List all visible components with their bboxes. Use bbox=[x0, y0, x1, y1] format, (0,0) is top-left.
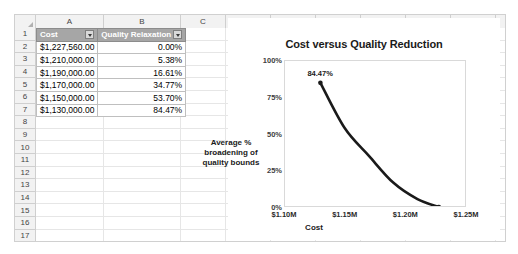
grid-cell-B17[interactable] bbox=[104, 230, 181, 243]
column-header-cost-label: Cost bbox=[40, 30, 58, 39]
series-line bbox=[285, 61, 465, 206]
grid-cell-B13[interactable] bbox=[104, 179, 181, 192]
column-header-C[interactable]: C bbox=[181, 15, 226, 28]
grid-cell-C5[interactable] bbox=[181, 78, 226, 91]
row-header-10[interactable]: 10 bbox=[15, 141, 35, 154]
filter-dropdown-icon-quality-relaxation[interactable] bbox=[173, 30, 182, 39]
grid-cell-A9[interactable] bbox=[36, 129, 104, 142]
grid-cell-C8[interactable] bbox=[181, 116, 226, 129]
table-row[interactable]: $1,150,000.0053.70% bbox=[37, 91, 186, 104]
table-row[interactable]: $1,170,000.0034.77% bbox=[37, 79, 186, 92]
row-header-13[interactable]: 13 bbox=[15, 179, 35, 192]
grid-cell-B10[interactable] bbox=[104, 141, 181, 154]
cell-cost[interactable]: $1,227,560.00 bbox=[37, 41, 98, 54]
grid-cell-C12[interactable] bbox=[181, 167, 226, 180]
grid-cell-C3[interactable] bbox=[181, 53, 226, 66]
cell-cost[interactable]: $1,210,000.00 bbox=[37, 54, 98, 67]
chart-title: Cost versus Quality Reduction bbox=[228, 38, 500, 50]
y-tick-25%: 25% bbox=[242, 166, 282, 175]
row-header-9[interactable]: 9 bbox=[15, 129, 35, 142]
x-tick-$1.20M: $1.20M bbox=[377, 210, 433, 219]
grid-cell-C16[interactable] bbox=[181, 217, 226, 230]
grid-cell-B14[interactable] bbox=[104, 192, 181, 205]
grid-cell-B9[interactable] bbox=[104, 129, 181, 142]
cell-quality-relaxation[interactable]: 53.70% bbox=[98, 91, 186, 104]
grid-cell-B8[interactable] bbox=[104, 116, 181, 129]
filter-dropdown-icon-cost[interactable] bbox=[85, 30, 94, 39]
row-header-12[interactable]: 12 bbox=[15, 167, 35, 180]
row-header-4[interactable]: 4 bbox=[15, 66, 35, 79]
row-header-16[interactable]: 16 bbox=[15, 217, 35, 230]
plot-area bbox=[284, 60, 466, 207]
row-header-15[interactable]: 15 bbox=[15, 204, 35, 217]
table-row[interactable]: $1,130,000.0084.47% bbox=[37, 104, 186, 117]
table-row[interactable]: $1,190,000.0016.61% bbox=[37, 66, 186, 79]
grid-cell-C17[interactable] bbox=[181, 230, 226, 243]
column-header-quality-relaxation[interactable]: Quality Relaxation bbox=[98, 29, 186, 42]
table-header-row: Cost Quality Relaxation bbox=[37, 29, 186, 42]
row-header-17[interactable]: 17 bbox=[15, 230, 35, 243]
grid-cell-C7[interactable] bbox=[181, 104, 226, 117]
y-tick-100%: 100% bbox=[242, 56, 282, 65]
y-axis-title-line: broadening of bbox=[186, 148, 276, 158]
grid-cell-A13[interactable] bbox=[36, 179, 104, 192]
y-tick-50%: 50% bbox=[242, 129, 282, 138]
cell-quality-relaxation[interactable]: 16.61% bbox=[98, 66, 186, 79]
cell-quality-relaxation[interactable]: 0.00% bbox=[98, 41, 186, 54]
row-header-2[interactable]: 2 bbox=[15, 41, 35, 54]
column-header-cost[interactable]: Cost bbox=[37, 29, 98, 42]
cell-quality-relaxation[interactable]: 34.77% bbox=[98, 79, 186, 92]
y-axis-title: Average %broadening ofquality bounds bbox=[186, 138, 276, 168]
cell-cost[interactable]: $1,130,000.00 bbox=[37, 104, 98, 117]
grid-cell-B16[interactable] bbox=[104, 217, 181, 230]
data-label-84: 84.47% bbox=[307, 69, 332, 78]
cell-quality-relaxation[interactable]: 5.38% bbox=[98, 54, 186, 67]
grid-cell-C4[interactable] bbox=[181, 66, 226, 79]
column-header-A[interactable]: A bbox=[36, 15, 104, 28]
grid-cell-A15[interactable] bbox=[36, 204, 104, 217]
grid-cell-B15[interactable] bbox=[104, 204, 181, 217]
excel-worksheet-screenshot: ABCDEFGHIJK 1234567891011121314151617181… bbox=[0, 0, 518, 254]
row-header-14[interactable]: 14 bbox=[15, 192, 35, 205]
cell-quality-relaxation[interactable]: 84.47% bbox=[98, 104, 186, 117]
row-header-8[interactable]: 8 bbox=[15, 116, 35, 129]
row-header-1[interactable]: 1 bbox=[15, 28, 35, 41]
grid-cell-C13[interactable] bbox=[181, 179, 226, 192]
row-header-column: 12345678910111213141516171819 bbox=[15, 28, 36, 242]
grid-cell-B12[interactable] bbox=[104, 167, 181, 180]
grid-cell-A17[interactable] bbox=[36, 230, 104, 243]
y-axis-title-line: Average % bbox=[186, 138, 276, 148]
row-header-6[interactable]: 6 bbox=[15, 91, 35, 104]
y-tick-75%: 75% bbox=[242, 92, 282, 101]
row-header-11[interactable]: 11 bbox=[15, 154, 35, 167]
x-tick-$1.10M: $1.10M bbox=[256, 210, 312, 219]
table-row[interactable]: $1,227,560.000.00% bbox=[37, 41, 186, 54]
data-point-first bbox=[318, 81, 323, 86]
grid-cell-A11[interactable] bbox=[36, 154, 104, 167]
grid-cell-C15[interactable] bbox=[181, 204, 226, 217]
select-all-icon[interactable] bbox=[15, 15, 36, 28]
row-header-7[interactable]: 7 bbox=[15, 104, 35, 117]
x-tick-$1.15M: $1.15M bbox=[317, 210, 373, 219]
grid-cell-C2[interactable] bbox=[181, 41, 226, 54]
chart-object[interactable]: Cost versus Quality Reduction Average %b… bbox=[228, 18, 500, 240]
cell-cost[interactable]: $1,170,000.00 bbox=[37, 79, 98, 92]
grid-cell-A10[interactable] bbox=[36, 141, 104, 154]
x-axis-title: Cost bbox=[284, 223, 344, 232]
row-header-3[interactable]: 3 bbox=[15, 53, 35, 66]
row-header-5[interactable]: 5 bbox=[15, 78, 35, 91]
grid-cell-A12[interactable] bbox=[36, 167, 104, 180]
column-header-B[interactable]: B bbox=[104, 15, 181, 28]
cell-cost[interactable]: $1,190,000.00 bbox=[37, 66, 98, 79]
table-row[interactable]: $1,210,000.005.38% bbox=[37, 54, 186, 67]
grid-cell-A8[interactable] bbox=[36, 116, 104, 129]
x-tick-$1.25M: $1.25M bbox=[438, 210, 494, 219]
grid-cell-C1[interactable] bbox=[181, 28, 226, 41]
grid-cell-A14[interactable] bbox=[36, 192, 104, 205]
grid-cell-B11[interactable] bbox=[104, 154, 181, 167]
cell-cost[interactable]: $1,150,000.00 bbox=[37, 91, 98, 104]
grid-cell-C6[interactable] bbox=[181, 91, 226, 104]
grid-cell-C14[interactable] bbox=[181, 192, 226, 205]
excel-table[interactable]: Cost Quality Relaxation $1,227,560.000.0… bbox=[36, 28, 186, 117]
grid-cell-A16[interactable] bbox=[36, 217, 104, 230]
